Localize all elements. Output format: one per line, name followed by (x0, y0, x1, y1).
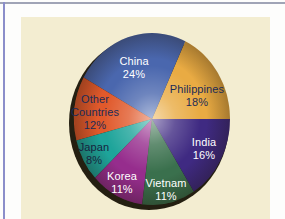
pie-center-highlight (74, 33, 230, 205)
scanned-page: Philippines18%China24%OtherCountries12%J… (0, 0, 285, 219)
pie-chart (0, 0, 285, 219)
